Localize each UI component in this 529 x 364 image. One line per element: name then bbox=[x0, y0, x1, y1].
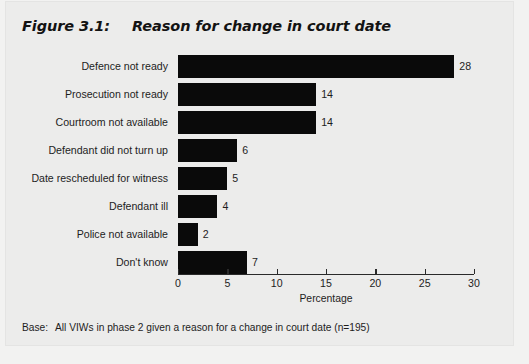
bar-value-label: 14 bbox=[316, 83, 333, 106]
bar-row: 6 bbox=[178, 139, 474, 162]
x-axis-tick bbox=[178, 269, 179, 274]
category-label: Police not available bbox=[77, 223, 168, 246]
bar bbox=[178, 195, 217, 218]
x-axis-tick-label: 20 bbox=[369, 277, 381, 289]
bar bbox=[178, 83, 316, 106]
figure-page: Figure 3.1: Reason for change in court d… bbox=[0, 0, 529, 364]
x-axis-tick-label: 5 bbox=[224, 277, 230, 289]
bar-row: 4 bbox=[178, 195, 474, 218]
figure-title-row: Figure 3.1: Reason for change in court d… bbox=[22, 18, 391, 40]
category-label: Courtroom not available bbox=[56, 111, 168, 134]
bar-value-label: 28 bbox=[454, 55, 471, 78]
x-axis-line bbox=[178, 274, 474, 275]
x-axis-title: Percentage bbox=[178, 293, 474, 304]
bar bbox=[178, 55, 454, 78]
footnote-text: All VIWs in phase 2 given a reason for a… bbox=[55, 322, 370, 333]
category-label: Don't know bbox=[116, 251, 168, 274]
category-label: Defendant did not turn up bbox=[48, 139, 168, 162]
chart-plot-area: Defence not readyProsecution not readyCo… bbox=[22, 50, 502, 298]
bar bbox=[178, 111, 316, 134]
x-axis-tick bbox=[326, 269, 327, 274]
figure-footnote: Base:All VIWs in phase 2 given a reason … bbox=[22, 322, 370, 333]
x-axis-tick bbox=[474, 269, 475, 274]
figure-number: Figure 3.1: bbox=[22, 18, 110, 34]
category-label: Date rescheduled for witness bbox=[31, 167, 168, 190]
bar-value-label: 2 bbox=[198, 223, 209, 246]
x-axis-tick bbox=[425, 269, 426, 274]
bar-row: 14 bbox=[178, 83, 474, 106]
x-axis-tick-label: 10 bbox=[271, 277, 283, 289]
category-label: Prosecution not ready bbox=[65, 83, 168, 106]
bar-series: 28141465427 bbox=[178, 50, 474, 274]
x-axis-tick-label: 30 bbox=[468, 277, 480, 289]
figure-title: Reason for change in court date bbox=[132, 18, 391, 34]
footnote-label: Base: bbox=[22, 322, 48, 333]
bar bbox=[178, 167, 227, 190]
bar-row: 5 bbox=[178, 167, 474, 190]
bar bbox=[178, 251, 247, 274]
x-axis-tick bbox=[375, 269, 376, 274]
x-axis-tick-label: 25 bbox=[419, 277, 431, 289]
x-axis-tick bbox=[277, 269, 278, 274]
x-axis-tick bbox=[227, 269, 228, 274]
bar-row: 14 bbox=[178, 111, 474, 134]
bar-value-label: 7 bbox=[247, 251, 258, 274]
category-label: Defence not ready bbox=[81, 55, 168, 78]
category-label: Defendant ill bbox=[109, 195, 168, 218]
bar-row: 2 bbox=[178, 223, 474, 246]
bar bbox=[178, 223, 198, 246]
bar bbox=[178, 139, 237, 162]
category-axis-labels: Defence not readyProsecution not readyCo… bbox=[22, 50, 174, 274]
bar-value-label: 14 bbox=[316, 111, 333, 134]
bar-row: 28 bbox=[178, 55, 474, 78]
bar-value-label: 5 bbox=[227, 167, 238, 190]
bar-value-label: 6 bbox=[237, 139, 248, 162]
bar-value-label: 4 bbox=[217, 195, 228, 218]
x-axis-tick-label: 0 bbox=[175, 277, 181, 289]
x-axis-tick-label: 15 bbox=[320, 277, 332, 289]
